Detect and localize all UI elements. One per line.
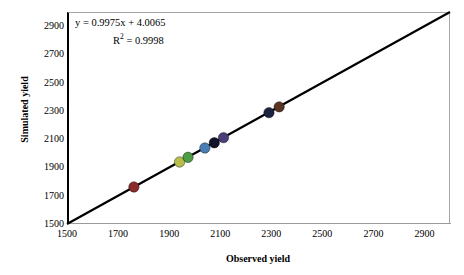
x-tick-label: 2900 (394, 228, 454, 239)
scatter-chart: Simulated yield 150017001900210023002500… (0, 0, 464, 275)
x-axis-tick-labels: 15001700190021002300250027002900 (0, 0, 464, 275)
x-axis-title: Observed yield (60, 253, 456, 264)
